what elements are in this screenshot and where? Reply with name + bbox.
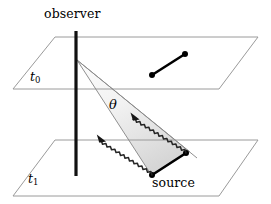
source-label: source: [152, 177, 195, 190]
time-label-t1: t1: [28, 173, 38, 186]
diagram-canvas: [0, 0, 271, 204]
angle-theta-label: θ: [109, 98, 117, 111]
time-label-t0: t0: [30, 71, 40, 84]
time-label-t0-subscript: 0: [35, 75, 40, 85]
source-segment-t0: [149, 51, 188, 78]
observer-label: observer: [44, 8, 101, 21]
physics-diagram: observer source t0 t1 θ: [0, 0, 271, 204]
upper-plane-t0: [13, 37, 258, 89]
time-label-t1-subscript: 1: [33, 177, 38, 187]
